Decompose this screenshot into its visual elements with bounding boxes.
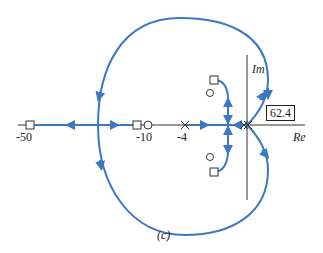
root-locus-figure: Im Re -50 -10 -4 62.4 (c) [0,0,323,253]
figure-caption: (c) [157,228,170,243]
pole-square-10 [133,121,141,129]
zero-10 [144,121,152,129]
zero-lower [207,154,214,161]
pole-square-50 [26,121,34,129]
tick-label-10: -10 [136,130,152,145]
real-axis-label: Re [293,130,306,145]
angle-annotation: 62.4 [266,105,295,121]
imag-axis-label: Im [252,62,265,77]
pole-square-upper [210,76,218,84]
root-locus-plot [0,0,323,253]
pole-square-lower [210,168,218,176]
tick-label-4: -4 [177,130,187,145]
zero-upper [207,90,214,97]
tick-label-50: -50 [16,130,32,145]
